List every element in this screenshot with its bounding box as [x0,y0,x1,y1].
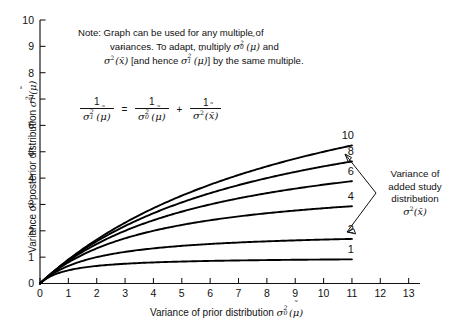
formula-term-study: 1 σ2 (˜x̄) [190,97,221,123]
x-axis-ticks [40,278,409,284]
added-study-variance-annotation: Variance of added study distribution σ2(… [381,168,449,219]
data-curves [40,145,352,283]
x-tick-label-3: 3 [122,287,128,299]
x-axis-title-text: Variance of prior distribution [150,307,274,318]
equals-sign: = [116,103,132,116]
y-axis-title-text: Variance of posterior distribution [27,110,38,253]
x-axis-title: Variance of prior distribution σ20(˜μ) [150,306,303,319]
plus-sign: + [171,103,187,116]
curve-6 [40,181,352,283]
curve-10 [40,145,352,283]
note-annotation: Note: Graph can be used for any multiple… [78,26,348,68]
x-axis-tick-labels: 012345678910111213 [37,287,415,299]
y-axis-title-symbol: σ21(˜μ) [27,81,38,108]
x-tick-label-6: 6 [207,287,213,299]
formula-term-posterior: 1 σ21 (˜μ) [80,96,114,123]
annotation-line-2: added study [381,181,449,194]
note-line-3-post: ] by the same multiple. [208,55,304,66]
y-tick-label-9: 9 [28,40,34,52]
x-tick-label-4: 4 [151,287,157,299]
x-tick-label-7: 7 [236,287,242,299]
formula-annotation: 1 σ21 (˜μ) = 1 σ20 (˜μ) + 1 σ2 (˜x̄) [80,96,221,123]
formula-term-prior: 1 σ20 (˜μ) [135,96,169,123]
x-tick-label-2: 2 [94,287,100,299]
note-line-2-pre: variances. To adapt, multiply [110,41,234,52]
x-tick-label-12: 12 [374,287,386,299]
annotation-line-3: distribution [381,193,449,206]
curve-label-10: 10 [342,129,354,141]
curve-label-6: 6 [348,165,354,177]
y-tick-label-10: 10 [22,14,34,26]
sigma-zero-mu-symbol: σ20 (˜μ) [234,41,261,52]
curve-label-1: 1 [348,243,354,255]
x-tick-label-13: 13 [403,287,415,299]
curve-1 [40,259,352,283]
chart-figure: 012345678910111213 012345678910 1086421 … [0,0,450,330]
sigma-sq-xbar-symbol: σ2 (˜x̄) [104,55,128,66]
y-axis-title: Variance of posterior distribution σ21(˜… [26,52,39,282]
x-axis-title-symbol: σ20(˜μ) [277,307,304,318]
x-tick-label-10: 10 [318,287,330,299]
x-tick-label-9: 9 [292,287,298,299]
sigma-one-mu-symbol: σ21 (˜μ) [181,55,208,66]
curve-value-labels: 1086421 [342,129,354,255]
note-line-2-post: and [260,41,279,52]
x-tick-label-0: 0 [37,287,43,299]
note-line-3-mid: [and hence [128,55,181,66]
note-line-1: Note: Graph can be used for any multiple… [78,27,264,38]
x-tick-label-1: 1 [65,287,71,299]
x-tick-label-8: 8 [264,287,270,299]
annotation-line-1: Variance of [381,168,449,181]
annotation-symbol: σ2(˜x̄) [381,206,449,219]
y-axis-ticks [40,20,46,284]
curve-label-4: 4 [348,190,354,202]
x-tick-label-5: 5 [179,287,185,299]
x-tick-label-11: 11 [346,287,357,299]
